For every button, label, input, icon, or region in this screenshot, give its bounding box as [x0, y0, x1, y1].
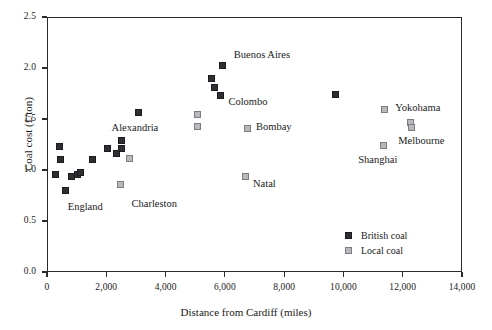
x-tick-mark — [402, 272, 403, 277]
y-tick-mark — [42, 169, 47, 170]
x-tick-mark — [343, 272, 344, 277]
x-tick-label: 0 — [17, 282, 77, 292]
x-tick-label: 6,000 — [195, 282, 255, 292]
x-tick-mark — [46, 272, 47, 277]
point-label-melbourne: Melbourne — [398, 135, 444, 146]
data-point-marker — [408, 124, 415, 131]
scatter-plot-figure: 0.00.51.01.52.02.5 02,0004,0006,0008,000… — [0, 0, 492, 330]
y-tick-label: 0.0 — [6, 266, 36, 276]
data-point-marker — [56, 143, 63, 150]
data-point-marker — [104, 145, 111, 152]
data-point-marker — [126, 155, 133, 162]
data-point-marker — [118, 137, 125, 144]
x-tick-label: 10,000 — [313, 282, 373, 292]
y-axis-title: Coal cost (£/ton) — [22, 49, 34, 219]
data-point-marker — [242, 173, 249, 180]
data-point-marker — [135, 109, 142, 116]
point-label-shanghai: Shanghai — [358, 154, 397, 165]
x-tick-mark — [224, 272, 225, 277]
x-tick-mark — [106, 272, 107, 277]
data-point-marker — [89, 156, 96, 163]
data-point-marker — [380, 142, 387, 149]
y-tick-mark — [42, 220, 47, 221]
x-axis-title: Distance from Cardiff (miles) — [0, 306, 492, 318]
data-point-marker — [57, 156, 64, 163]
page-caption-strip — [0, 322, 492, 330]
data-point-marker — [244, 125, 251, 132]
data-point-marker — [381, 106, 388, 113]
y-tick-mark — [42, 118, 47, 119]
legend-item: Local coal — [345, 243, 407, 258]
point-label-england: England — [68, 201, 103, 212]
data-point-marker — [117, 181, 124, 188]
data-point-marker — [211, 84, 218, 91]
x-tick-label: 14,000 — [432, 282, 492, 292]
data-point-marker — [194, 123, 201, 130]
data-point-marker — [194, 111, 201, 118]
data-point-marker — [77, 169, 84, 176]
x-tick-label: 8,000 — [254, 282, 314, 292]
y-tick-mark — [42, 67, 47, 68]
point-label-buenos-aires: Buenos Aires — [234, 49, 290, 60]
x-tick-mark — [284, 272, 285, 277]
legend: British coalLocal coal — [345, 228, 407, 258]
point-label-natal: Natal — [253, 178, 276, 189]
y-tick-mark — [42, 16, 47, 17]
data-point-marker — [208, 75, 215, 82]
x-tick-label: 2,000 — [76, 282, 136, 292]
point-label-bombay: Bombay — [256, 121, 292, 132]
point-label-charleston: Charleston — [131, 198, 177, 209]
data-point-marker — [332, 91, 339, 98]
x-tick-mark — [165, 272, 166, 277]
point-label-colombo: Colombo — [228, 96, 267, 107]
x-tick-label: 12,000 — [373, 282, 433, 292]
point-label-yokohama: Yokohama — [395, 102, 440, 113]
point-label-alexandria: Alexandria — [112, 122, 159, 133]
data-point-marker — [52, 171, 59, 178]
legend-swatch-icon — [345, 247, 352, 254]
data-point-marker — [118, 145, 125, 152]
x-tick-mark — [461, 272, 462, 277]
legend-item: British coal — [345, 228, 407, 243]
data-point-marker — [217, 92, 224, 99]
data-point-marker — [219, 62, 226, 69]
data-point-marker — [62, 187, 69, 194]
legend-swatch-icon — [345, 232, 352, 239]
legend-label: Local coal — [361, 245, 403, 256]
y-tick-label: 2.5 — [6, 11, 36, 21]
x-tick-label: 4,000 — [136, 282, 196, 292]
legend-label: British coal — [361, 230, 407, 241]
